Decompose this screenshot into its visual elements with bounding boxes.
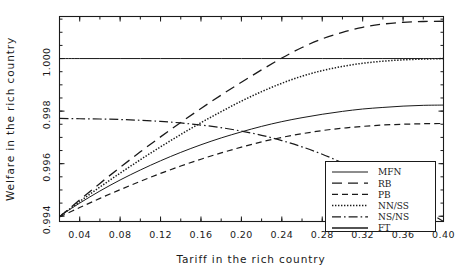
legend-label-rb: RB	[378, 179, 392, 189]
legend-label-ft: FT	[378, 223, 390, 233]
y-tick-label: 1.000	[42, 47, 53, 76]
y-tick-label: 0.994	[42, 205, 53, 234]
x-tick-label: 0.24	[270, 229, 293, 240]
x-tick-label: 0.08	[109, 229, 132, 240]
legend-label-nn-ss: NN/SS	[378, 201, 409, 211]
welfare-tariff-line-chart: 0.040.080.120.160.200.240.280.320.360.40…	[0, 0, 464, 277]
y-axis-title: Welfare in the rich country	[4, 37, 16, 201]
legend-label-mfn: MFN	[378, 167, 401, 177]
x-tick-label: 0.16	[190, 229, 213, 240]
y-tick-label: 0.998	[42, 100, 53, 129]
x-tick-label: 0.12	[149, 229, 172, 240]
y-tick-label: 0.996	[42, 153, 53, 182]
chart-legend: MFNRBPBNN/SSNS/NSFT	[326, 162, 436, 234]
legend-label-ns-ns: NS/NS	[378, 212, 409, 222]
x-axis-title: Tariff in the rich country	[175, 253, 325, 265]
legend-label-pb: PB	[378, 190, 391, 200]
x-tick-label: 0.04	[68, 229, 91, 240]
chart-figure: 0.040.080.120.160.200.240.280.320.360.40…	[0, 0, 464, 277]
x-tick-label: 0.20	[230, 229, 253, 240]
